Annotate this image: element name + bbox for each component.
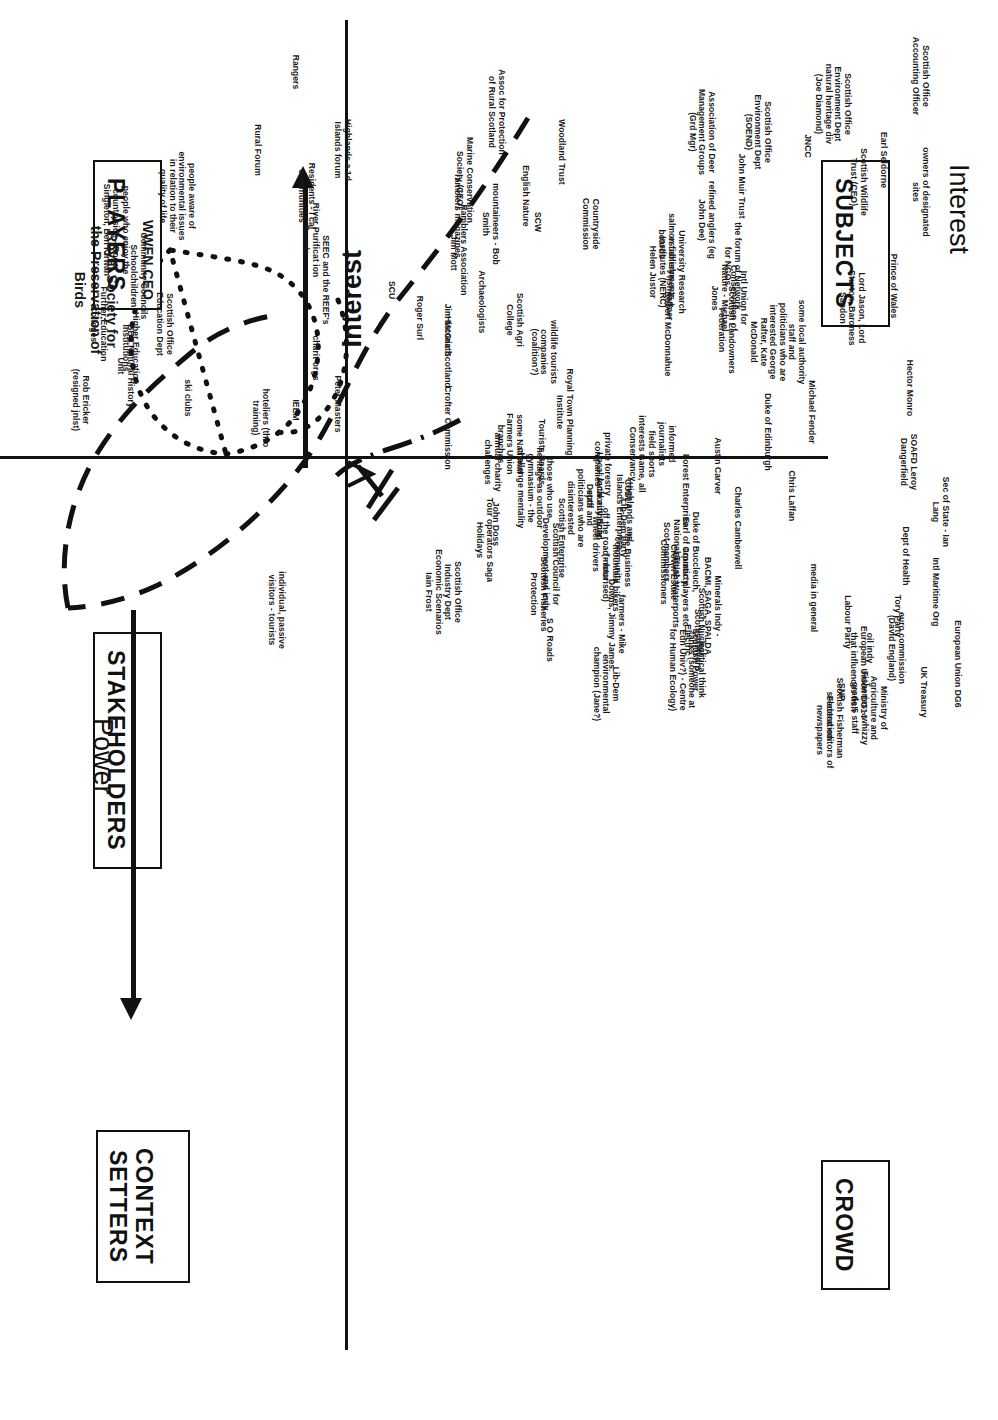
stakeholder-label: SOAFD Leroy Dangerfield <box>899 434 918 490</box>
stakeholder-label: selected editors of newspapers <box>815 691 834 768</box>
stakeholder-label: English Nature <box>520 165 530 226</box>
stakeholder-label: media in general <box>808 564 818 633</box>
stakeholder-map-page: SUBJECTS PLAYERS CROWD CONTEXT SETTERS S… <box>0 0 998 1420</box>
stakeholder-label: Association of Deer Management Groups (G… <box>687 89 716 175</box>
stakeholder-label: mountaineers - Bob Smith <box>481 183 500 265</box>
interest-axis-caption-outer: Interest <box>943 164 974 254</box>
stakeholder-label: BBC Natural History Unit <box>116 324 135 408</box>
stakeholder-label: Scottish Office Industry Dept Economic S… <box>424 549 462 634</box>
stakeholder-label: Woodland Trust <box>556 119 566 184</box>
stakeholder-label: Dept of Health <box>900 526 910 585</box>
stakeholder-label: some local authority staff and politicia… <box>749 300 806 385</box>
stakeholder-label: Prince of Wales <box>888 254 898 318</box>
stakeholder-label: Duke of Edinburgh <box>762 393 772 471</box>
stakeholder-label: Assoc for Protection of Rural Scotland <box>487 69 506 155</box>
stakeholder-label: Sec of State - Ian Lang <box>931 477 950 547</box>
stakeholder-label: Hector Monro <box>904 360 914 416</box>
stakeholder-label: JNCC <box>802 134 812 158</box>
diagram-canvas: SUBJECTS PLAYERS CROWD CONTEXT SETTERS S… <box>0 0 998 1420</box>
vertical-axis <box>0 456 828 459</box>
quadrant-label-crowd: CROWD <box>831 1178 857 1272</box>
stakeholder-label: euro commission (David England) <box>887 612 906 684</box>
stakeholder-label: Peter Masters <box>332 375 342 432</box>
stakeholder-label: Further Education Colleges <box>89 287 108 362</box>
stakeholder-label: Tour operators Saga Holidays <box>475 498 494 582</box>
stakeholder-label: Scottish Landowners Federation <box>717 286 736 374</box>
stakeholder-label: owners of designated sites <box>911 147 930 236</box>
stakeholder-label: Earl Seldorne <box>878 132 888 188</box>
stakeholder-label: Scottish Wildlife Trust (CEO) <box>849 148 868 216</box>
stakeholder-label: Scottish Office Environment Dept natural… <box>814 64 852 144</box>
stakeholder-label: S O Roads <box>544 618 554 662</box>
stakeholder-label: people who enjoy the countryside - Roger… <box>101 184 130 276</box>
stakeholder-label: Roger Surl <box>414 296 424 340</box>
stakeholder-label: Charles Camberwell <box>732 486 742 569</box>
stakeholder-label: Michael Fender <box>806 380 816 443</box>
stakeholder-label: Countryside Commission <box>581 198 600 250</box>
stakeholder-label: Scottish Agri College <box>505 293 524 347</box>
stakeholder-label: Lib-Dem environmental champion (Jane?) <box>591 647 620 721</box>
stakeholder-label: Royal Town Planning Institute <box>555 368 574 455</box>
stakeholder-label: those who use heritage as outdoor gymnas… <box>516 447 554 528</box>
stakeholder-label: John Muir Trust <box>736 153 746 218</box>
stakeholder-label: Scottish Office Accounting Officer <box>911 37 930 115</box>
stakeholder-label: Ramblers Association - Jim Mott <box>449 205 468 296</box>
stakeholder-label: Rangers <box>290 55 300 90</box>
stakeholder-label: wildlife tourists companies (coalition?) <box>529 320 558 384</box>
stakeholder-label: European Union DG6 <box>952 620 962 707</box>
stakeholder-label: Chris Laffan <box>786 471 796 522</box>
stakeholder-label: SCW <box>532 212 542 232</box>
stakeholder-label: Community Councils Schoolchildren <box>129 233 148 320</box>
stakeholder-label: refined anglers (eg John Dee) <box>697 181 716 259</box>
stakeholder-label: UK Treasury <box>918 666 928 717</box>
stakeholder-label: individual, passive visitors - tourists <box>267 571 286 648</box>
stakeholder-label: Ministry of Agriculture and Fisheries - … <box>850 671 888 745</box>
interest-axis-caption-inner: Interest <box>337 250 368 348</box>
stakeholder-label: IEEM <box>290 399 300 420</box>
stakeholder-label: Historic Scotland <box>442 316 452 388</box>
stakeholder-label: Archaeologists <box>476 271 486 334</box>
power-axis-arrow-head <box>120 998 142 1020</box>
quadrant-label-context-setters: CONTEXT SETTERS <box>105 1148 156 1265</box>
stakeholder-label: River Purificat ion Boards <box>301 203 320 278</box>
stakeholder-label: Scottish Office Education Dept <box>155 292 174 356</box>
stakeholder-label: informed journalists <box>657 422 676 466</box>
stakeholder-label: SEEC and the REEF's <box>320 235 330 324</box>
stakeholder-label: Intl Maritime Org <box>930 557 940 626</box>
power-axis-arrow-line <box>131 610 136 1000</box>
stakeholder-label: Austin Carver <box>712 437 722 494</box>
stakeholder-label: Rob Ericker (resigned jnlst) <box>71 369 90 432</box>
quadrant-box-crowd: CROWD <box>821 1160 890 1290</box>
stakeholder-label: ski clubs <box>182 379 192 416</box>
stakeholder-label: Rural Forum <box>252 124 262 176</box>
quadrant-box-context-setters: CONTEXT SETTERS <box>96 1130 190 1283</box>
stakeholder-label: Highlands a 1d Islands forum <box>333 119 352 181</box>
stakeholder-label: political think tanks (someone at Edn Un… <box>668 629 706 712</box>
stakeholder-label: annual charity challenges <box>483 432 502 491</box>
horizontal-axis <box>345 20 348 1350</box>
stakeholder-label: Robert McDonnahue <box>662 292 672 377</box>
stakeholder-label: Lord Jason, Lord Sturton, Baroness Sando… <box>837 270 866 345</box>
stakeholder-label: hoteliers (thro training) <box>251 389 270 448</box>
stakeholder-label: people aware of environmental issues in … <box>158 152 196 241</box>
stakeholder-label: SCU <box>386 281 396 299</box>
stakeholder-label: Scottish Office Environment Dept (SOEND) <box>743 95 772 170</box>
stakeholder-label: charit orgs <box>310 335 320 380</box>
power-axis-caption: Power <box>87 718 118 795</box>
stakeholder-label: Crofter Commission <box>442 386 452 470</box>
